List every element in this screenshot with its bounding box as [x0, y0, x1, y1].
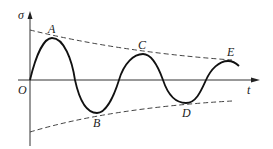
- y-axis-arrow-icon: [28, 11, 33, 19]
- damped-oscillation-diagram: σ t O A B C D E: [0, 0, 273, 149]
- point-label-b: B: [93, 117, 100, 129]
- point-label-d: D: [182, 107, 191, 119]
- y-axis-label: σ: [18, 9, 24, 21]
- origin-label: O: [18, 84, 27, 96]
- lower-envelope: [30, 101, 232, 132]
- diagram-canvas: [0, 0, 273, 149]
- oscillation-curve: [30, 38, 239, 113]
- x-axis-label: t: [247, 84, 250, 96]
- x-axis-arrow-icon: [251, 78, 260, 83]
- point-label-e: E: [227, 46, 234, 58]
- upper-envelope: [30, 30, 232, 60]
- point-label-a: A: [48, 23, 55, 35]
- point-label-c: C: [138, 39, 146, 51]
